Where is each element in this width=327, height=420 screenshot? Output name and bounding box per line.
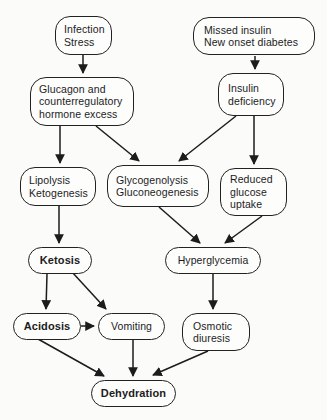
node-acidosis: Acidosis <box>13 313 81 340</box>
edge-insulindef-to-glycogenolysis <box>179 116 236 161</box>
node-lipolysis-ketogenesis: Lipolysis Ketogenesis <box>20 167 96 206</box>
node-dehydration: Dehydration <box>91 380 176 407</box>
edge-glycogenolysis-to-hyperglycemia <box>159 207 200 243</box>
node-reduced-glucose-uptake: Reduced glucose uptake <box>220 168 287 216</box>
node-glucagon-excess: Glucagon and counterregulatory hormone e… <box>30 77 134 126</box>
node-glycogenolysis-gluconeogenesis: Glycogenolysis Gluconeogenesis <box>107 165 209 207</box>
node-ketosis: Ketosis <box>28 247 92 274</box>
edge-ketosis-to-acidosis <box>46 274 47 309</box>
edge-ketosis-to-vomiting <box>72 272 106 309</box>
edge-glucagon-to-glycogenolysis <box>96 126 139 161</box>
node-insulin-deficiency: Insulin deficiency <box>218 73 284 116</box>
edge-acidosis-to-dehydration <box>38 339 104 376</box>
node-infection-stress: Infection Stress <box>55 16 112 55</box>
node-vomiting: Vomiting <box>98 313 165 340</box>
node-hyperglycemia: Hyperglycemia <box>165 247 261 274</box>
edge-reduced-to-hyperglycemia <box>225 216 262 243</box>
edge-osmotic-to-dehydration <box>153 351 208 375</box>
node-missed-insulin: Missed insulin New onset diabetes <box>193 17 315 55</box>
node-osmotic-diuresis: Osmotic diuresis <box>182 313 250 351</box>
flowchart-canvas: Infection Stress Missed insulin New onse… <box>0 0 327 420</box>
